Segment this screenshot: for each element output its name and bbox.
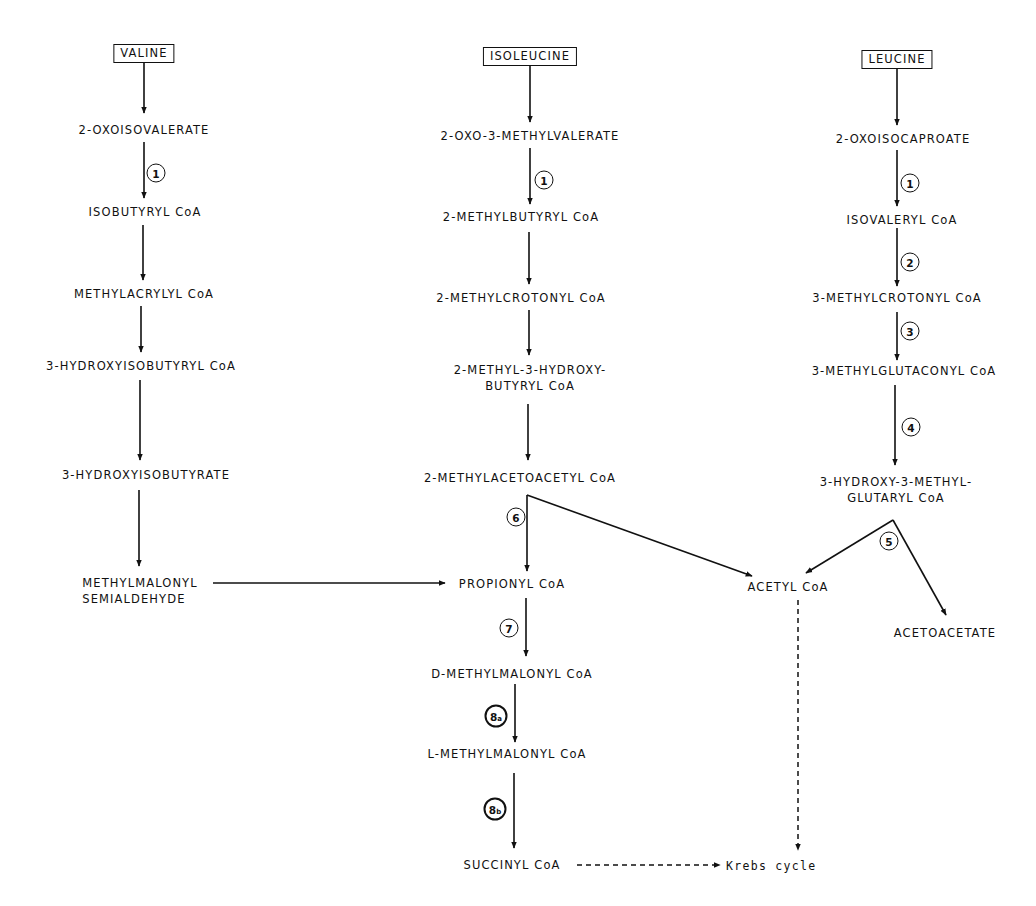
metabolite-isovaleryl-coa: ISOVALERYL CoA <box>847 212 958 228</box>
krebs-cycle: Krebs cycle <box>726 858 816 874</box>
step-8b-number: 8 <box>489 803 496 815</box>
metabolite-acetoacetate: ACETOACETATE <box>894 625 996 641</box>
metabolite-2-methylbutyryl-coa: 2-METHYLBUTYRYL CoA <box>443 209 599 225</box>
enzyme-step-4-badge: 4 <box>902 418 921 437</box>
hydroxybutyryl-line2: BUTYRYL CoA <box>454 378 607 394</box>
semialdehyde-line1: METHYLMALONYL <box>82 575 197 591</box>
arrow-hmg-to-acetoacetate <box>893 520 946 615</box>
metabolite-propionyl-coa: PROPIONYL CoA <box>459 576 565 592</box>
metabolite-3-hydroxyisobutyryl-coa: 3-HYDROXYISOBUTYRYL CoA <box>46 358 236 374</box>
enzyme-step-5-badge: 5 <box>880 532 899 551</box>
metabolite-l-methylmalonyl-coa: L-METHYLMALONYL CoA <box>427 746 586 762</box>
arrow-hmg-to-acetyl <box>806 520 893 573</box>
metabolite-2-methylacetoacetyl-coa: 2-METHYLACETOACETYL CoA <box>424 470 616 486</box>
metabolite-3-methylglutaconyl-coa: 3-METHYLGLUTACONYL CoA <box>812 363 997 379</box>
metabolite-succinyl-coa: SUCCINYL CoA <box>464 857 561 873</box>
enzyme-step-8b-badge: 8b <box>484 798 507 821</box>
metabolite-3-methylcrotonyl-coa: 3-METHYLCROTONYL CoA <box>812 290 982 306</box>
metabolite-acetyl-coa: ACETYL CoA <box>747 579 828 595</box>
metabolite-2-oxoisocaproate: 2-OXOISOCAPROATE <box>836 131 971 147</box>
enzyme-step-7-badge: 7 <box>500 619 519 638</box>
metabolite-methylmalonyl-semialdehyde: METHYLMALONYL SEMIALDEHYDE <box>82 575 197 607</box>
metabolite-hmg-coa: 3-HYDROXY-3-METHYL- GLUTARYL CoA <box>820 474 973 506</box>
enzyme-step-6-badge: 6 <box>507 508 526 527</box>
enzyme-step-3-badge: 3 <box>901 322 920 341</box>
semialdehyde-line2: SEMIALDEHYDE <box>82 591 197 607</box>
metabolite-3-hydroxyisobutyrate: 3-HYDROXYISOBUTYRATE <box>62 467 230 483</box>
enzyme-step-1-leucine-badge: 1 <box>901 174 920 193</box>
amino-acid-leucine: LEUCINE <box>861 50 932 69</box>
metabolite-2-oxo-3-methylvalerate: 2-OXO-3-METHYLVALERATE <box>441 128 620 144</box>
metabolite-2-oxoisovalerate: 2-OXOISOVALERATE <box>79 122 210 138</box>
amino-acid-isoleucine: ISOLEUCINE <box>483 47 577 66</box>
amino-acid-valine: VALINE <box>113 44 174 63</box>
step-8a-number: 8 <box>490 710 497 722</box>
hmg-line2: GLUTARYL CoA <box>820 490 973 506</box>
metabolite-methylacrylyl-coa: METHYLACRYLYL CoA <box>74 286 214 302</box>
hmg-line1: 3-HYDROXY-3-METHYL- <box>820 474 973 490</box>
metabolite-2-methyl-3-hydroxybutyryl-coa: 2-METHYL-3-HYDROXY- BUTYRYL CoA <box>454 362 607 394</box>
enzyme-step-2-badge: 2 <box>901 253 920 272</box>
metabolite-2-methylcrotonyl-coa: 2-METHYLCROTONYL CoA <box>436 290 606 306</box>
metabolite-isobutyryl-coa: ISOBUTYRYL CoA <box>89 204 202 220</box>
enzyme-step-8a-badge: 8a <box>485 705 508 728</box>
metabolite-d-methylmalonyl-coa: D-METHYLMALONYL CoA <box>431 666 593 682</box>
step-8b-suffix: b <box>496 807 501 815</box>
enzyme-step-1-valine-badge: 1 <box>147 164 166 183</box>
arrow-methylacetoacetyl-to-acetyl <box>527 495 752 576</box>
step-8a-suffix: a <box>497 714 502 722</box>
hydroxybutyryl-line1: 2-METHYL-3-HYDROXY- <box>454 362 607 378</box>
enzyme-step-1-isoleucine-badge: 1 <box>535 171 554 190</box>
